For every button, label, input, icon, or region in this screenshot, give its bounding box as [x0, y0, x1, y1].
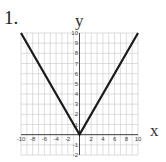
y-tick-label: 10: [71, 30, 78, 36]
graph: -10-8-6-4-2246810-2-112345678910: [0, 0, 166, 162]
x-tick-label: 2: [90, 136, 94, 142]
x-tick-label: 6: [113, 136, 117, 142]
x-tick-label: 10: [135, 136, 142, 142]
x-tick-label: -10: [17, 136, 26, 142]
x-tick-label: 4: [101, 136, 105, 142]
x-tick-label: -6: [42, 136, 48, 142]
x-tick-label: 8: [125, 136, 129, 142]
y-tick-label: -2: [73, 152, 79, 158]
x-tick-label: -8: [30, 136, 36, 142]
x-tick-label: -4: [53, 136, 59, 142]
x-tick-label: -2: [65, 136, 71, 142]
y-tick-label: -1: [73, 142, 79, 148]
